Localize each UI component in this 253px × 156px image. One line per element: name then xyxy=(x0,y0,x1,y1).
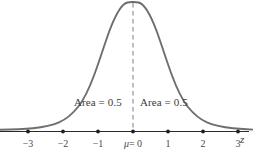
axis-variable-label: z xyxy=(240,133,244,145)
normal-distribution-figure: Area = 0.5 Area = 0.5 −3 −2 −1 μ= 0 1 2 … xyxy=(0,0,253,156)
tick-mark xyxy=(166,130,170,134)
tick-mark xyxy=(61,130,65,134)
area-label-left: Area = 0.5 xyxy=(74,96,122,108)
tick-label-mean: μ= 0 xyxy=(124,138,142,149)
tick-mark xyxy=(26,130,30,134)
normal-curve xyxy=(0,2,253,130)
tick-mark xyxy=(131,130,135,134)
tick-label-2: 2 xyxy=(201,138,206,149)
tick-label-1: 1 xyxy=(166,138,171,149)
area-label-right: Area = 0.5 xyxy=(140,96,188,108)
tick-mark xyxy=(96,130,100,134)
tick-label-neg3: −3 xyxy=(23,138,34,149)
tick-label-mean-value: = 0 xyxy=(129,138,142,149)
tick-label-neg2: −2 xyxy=(58,138,69,149)
tick-label-neg1: −1 xyxy=(93,138,104,149)
chart-canvas xyxy=(0,0,253,156)
tick-mark xyxy=(201,130,205,134)
